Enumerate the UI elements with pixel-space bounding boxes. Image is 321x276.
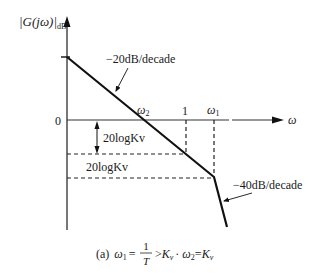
kv-double-arrow [95, 121, 100, 154]
level-label-upper: 20logKv [103, 131, 145, 145]
y-axis-label: |G(jω)|dB [19, 14, 66, 31]
x-axis-arrow-icon [272, 117, 284, 124]
svg-text:T: T [143, 255, 150, 267]
slope-leader-20 [116, 68, 128, 91]
omega1-label: ω1 [207, 103, 219, 118]
bode-diagram: |G(jω)|dB ω 0 ω2 1 ω1 20logKv 20logKv −2… [0, 0, 321, 276]
magnitude-asymptote [67, 57, 227, 227]
svg-text:(a) ω1=: (a) ω1= [96, 247, 136, 262]
one-label: 1 [182, 104, 188, 118]
level-label-lower: 20logKv [86, 160, 128, 174]
slope-label-20: −20dB/decade [106, 52, 175, 66]
x-axis-label: ω [288, 113, 296, 127]
zero-db-label: 0 [55, 114, 61, 128]
x-axis [67, 117, 284, 124]
caption: (a) ω1= 1 T >Kv·ω2=Kv [96, 240, 214, 267]
y-axis [64, 16, 71, 230]
slope-leader-40 [224, 193, 252, 201]
svg-text:1: 1 [143, 240, 149, 252]
svg-text:>Kv·ω2=Kv: >Kv·ω2=Kv [155, 247, 214, 262]
arrow-down-icon [95, 146, 100, 154]
omega2-label: ω2 [137, 103, 149, 118]
arrow-up-icon [95, 121, 100, 129]
slope-label-40: −40dB/decade [233, 178, 302, 192]
